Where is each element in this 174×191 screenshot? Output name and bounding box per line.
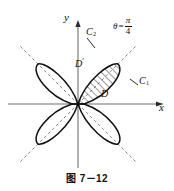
figure-container: y x C2 C1 D′ D θ = π 4 图 7－12 [0,0,174,191]
curve-label-c2-subscript: 2 [93,30,96,37]
x-axis-label: x [159,102,164,113]
fraction-denominator-4: 4 [125,27,132,37]
curve-label-c1: C1 [139,76,149,86]
leader-to-c1 [130,79,138,85]
y-axis-label: y [64,12,69,23]
curve-label-c2: C2 [86,27,96,37]
petal-lower-right [78,104,120,144]
figure-caption: 图 7－12 [0,170,174,185]
region-label-d-prime: D′ [75,58,84,69]
petal-lower-left [36,104,78,144]
petal-upper-left [36,64,78,104]
curve-label-c1-letter: C [139,75,146,86]
theta-equation-label: θ = π 4 [113,16,132,36]
curve-label-c2-letter: C [86,26,93,37]
y-axis-arrowhead [75,20,80,27]
curve-label-c1-subscript: 1 [146,79,149,86]
pi-over-4-fraction: π 4 [125,16,132,36]
ray-3pi-over-4 [19,45,78,104]
fraction-numerator-pi: π [125,16,132,26]
leader-to-c2 [87,38,95,48]
theta-equals-sign: = [117,22,124,31]
ray-7pi-over-4 [78,104,137,163]
region-label-d: D [101,89,108,99]
ray-5pi-over-4 [19,104,78,163]
region-label-prime-mark: ′ [82,57,84,66]
